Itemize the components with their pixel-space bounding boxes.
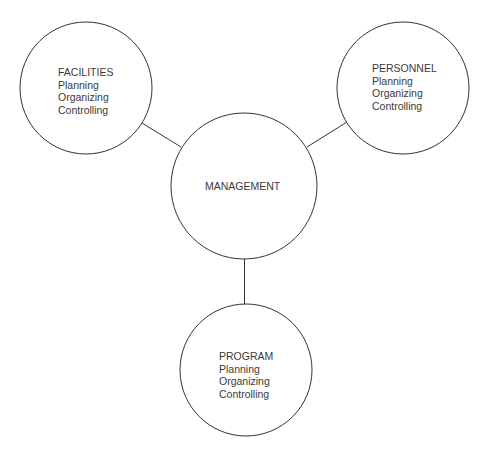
node-program-text: PROGRAM Planning Organizing Controlling <box>219 350 273 400</box>
node-title: PROGRAM <box>219 350 273 363</box>
node-item: Controlling <box>219 388 273 401</box>
node-management-text: MANAGEMENT <box>205 180 280 192</box>
node-item: Controlling <box>58 104 113 117</box>
node-item: Planning <box>372 75 437 88</box>
node-item: Controlling <box>372 100 437 113</box>
edge-facilities-management <box>142 123 181 147</box>
node-item: Planning <box>58 79 113 92</box>
node-item: Organizing <box>58 91 113 104</box>
node-personnel-text: PERSONNEL Planning Organizing Controllin… <box>372 62 437 112</box>
node-item: Planning <box>219 363 273 376</box>
node-facilities-text: FACILITIES Planning Organizing Controlli… <box>58 66 113 116</box>
node-title: FACILITIES <box>58 66 113 79</box>
edge-personnel-management <box>307 122 347 147</box>
node-title: PERSONNEL <box>372 62 437 75</box>
node-item: Organizing <box>219 375 273 388</box>
node-item: Organizing <box>372 87 437 100</box>
